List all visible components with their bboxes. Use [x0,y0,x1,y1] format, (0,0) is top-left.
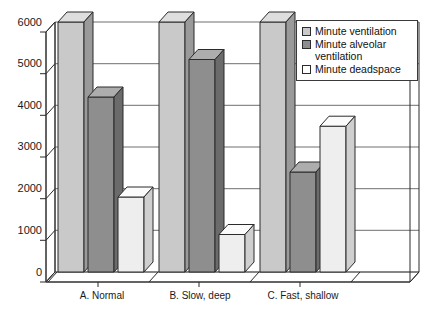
legend-item-minute-alveolar-ventilation: Minute alveolar ventilation [302,38,413,62]
chart-floor [46,272,419,282]
bar-A-minute-deadspace [118,187,153,272]
legend-label-series2: Minute alveolar ventilation [315,38,386,62]
legend-swatch-series3 [302,65,311,74]
legend-item-minute-deadspace: Minute deadspace [302,63,413,75]
bar-C-minute-deadspace [320,116,355,272]
chart-legend: Minute ventilation Minute alveolar venti… [296,20,418,81]
bar-chart: 6000 5000 4000 3000 2000 1000 0 [0,0,427,310]
legend-label-series3: Minute deadspace [315,63,401,75]
legend-label-series1: Minute ventilation [315,25,397,37]
legend-item-minute-ventilation: Minute ventilation [302,25,413,37]
legend-swatch-series2 [302,40,311,49]
legend-swatch-series1 [302,27,311,36]
x-tick-label-a: A. Normal [52,290,152,301]
bar-B-minute-deadspace [219,225,254,273]
x-tick-label-c: C. Fast, shallow [248,290,358,301]
x-tick-label-b: B. Slow, deep [150,290,250,301]
